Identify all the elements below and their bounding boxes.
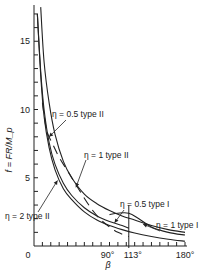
x-axis-label: β (104, 260, 110, 270)
y-axis-label: f = FR/M_p (4, 128, 14, 173)
annotation-label: η = 0.5 type I (120, 199, 169, 209)
x-tick-label: 0 (25, 250, 30, 260)
annotation-leader (76, 160, 86, 187)
annotation-label: η = 1 type I (156, 220, 198, 230)
axes (34, 5, 187, 246)
chart: 51015 090°113°180° η = 0.5 type IIη = 1 … (0, 0, 210, 278)
x-tick-labels: 090°113°180° (25, 250, 194, 260)
y-tick-label: 10 (20, 105, 30, 115)
y-tick-labels: 51015 (20, 36, 30, 183)
y-tick-label: 5 (25, 173, 30, 183)
annotation-leader (38, 180, 57, 212)
x-tick-label: 90° (101, 250, 115, 260)
annotation-label: η = 1 type II (84, 150, 129, 160)
x-tick-label: 180° (176, 250, 195, 260)
y-tick-label: 15 (20, 36, 30, 46)
x-tick-label: 113° (124, 250, 142, 260)
x-ticks (42, 242, 185, 246)
annotation-label: η = 0.5 type II (52, 109, 104, 119)
series-line-1-type-ii (37, 14, 128, 228)
annotation-arrowhead (115, 218, 119, 222)
y-ticks (34, 14, 38, 232)
annotation-label: η = 2 type II (5, 211, 50, 221)
